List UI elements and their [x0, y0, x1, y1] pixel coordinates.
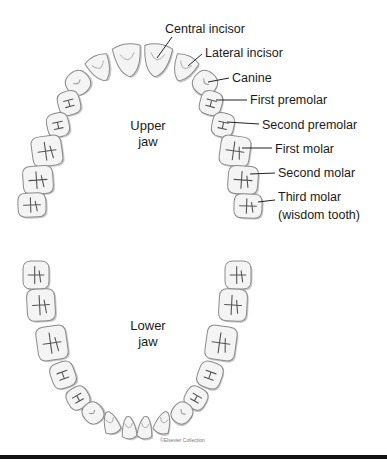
label-second-molar: Second molar [278, 166, 355, 180]
tooth-molar [218, 134, 254, 170]
tooth-molar [218, 288, 249, 323]
lower-jaw-label-line1: Lower [118, 318, 178, 334]
tooth-central [121, 416, 140, 441]
tooth-central [141, 42, 175, 80]
bottom-divider-bar [0, 455, 387, 459]
tooth-central [112, 42, 146, 80]
tooth-molar [234, 194, 264, 221]
dental-diagram [0, 0, 387, 463]
tooth-molar [225, 261, 253, 291]
label-third-molar: Third molar [278, 190, 341, 204]
upper-jaw-label: Upper jaw [118, 118, 178, 150]
label-first-premolar: First premolar [250, 93, 327, 107]
lower-jaw-teeth [23, 261, 253, 441]
tooth-central [136, 416, 155, 441]
label-wisdom-tooth: (wisdom tooth) [278, 208, 360, 222]
tooth-molar [18, 192, 48, 219]
lower-jaw-label-line2: jaw [118, 334, 178, 350]
lower-jaw-label: Lower jaw [118, 318, 178, 350]
label-first-molar: First molar [275, 142, 334, 156]
tooth-molar [227, 165, 260, 197]
label-central-incisor: Central incisor [165, 22, 245, 36]
tooth-molar [22, 165, 55, 197]
label-canine: Canine [232, 71, 272, 85]
label-second-premolar: Second premolar [262, 118, 357, 132]
upper-jaw-label-line2: jaw [118, 134, 178, 150]
tooth-molar [35, 324, 71, 364]
label-lateral-incisor: Lateral incisor [205, 46, 283, 60]
tooth-molar [23, 261, 51, 291]
tooth-molar [204, 324, 240, 364]
copyright-notice: ©Elsevier Collection [160, 437, 205, 443]
upper-jaw-label-line1: Upper [118, 118, 178, 134]
tooth-molar [30, 134, 66, 170]
tooth-molar [26, 288, 57, 323]
